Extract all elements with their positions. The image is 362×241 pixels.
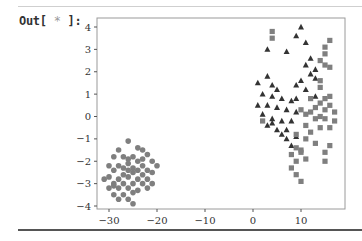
square-marker [318,125,323,130]
square-marker [332,109,337,114]
cell-bottom-divider [18,229,362,231]
y-tick-label: 0 [85,111,91,122]
square-marker [308,130,313,135]
circle-marker [121,172,127,178]
square-marker [322,159,327,164]
scatter-plot: 43210−1−2−3−4 −30−20−10010 [0,0,362,241]
square-marker [318,100,323,105]
y-tick-label: −1 [76,133,91,144]
square-marker [322,45,327,50]
circle-marker [125,196,131,202]
circle-marker [130,201,136,207]
square-marker [318,114,323,119]
circle-marker [130,190,136,196]
circle-marker [145,152,151,158]
square-marker [322,62,327,67]
circle-marker [145,185,151,191]
square-marker [308,109,313,114]
circle-marker [125,174,131,180]
square-marker [298,150,303,155]
circle-marker [111,192,117,198]
square-marker [327,103,332,108]
square-marker [327,143,332,148]
square-marker [303,136,308,141]
circle-marker [116,196,122,202]
square-marker [318,78,323,83]
square-marker [289,165,294,170]
square-marker [294,159,299,164]
y-tick-label: 4 [85,22,91,33]
x-tick-label: −10 [194,215,215,226]
square-marker [308,96,313,101]
square-marker [318,58,323,63]
circle-marker [135,176,141,182]
circle-marker [111,154,117,160]
circle-marker [135,158,141,164]
circle-marker [154,163,160,169]
x-tick-label: −30 [98,215,119,226]
square-marker [327,38,332,43]
square-marker [303,123,308,128]
square-marker [322,96,327,101]
square-marker [303,156,308,161]
square-marker [332,118,337,123]
circle-marker [140,163,146,169]
square-marker [322,150,327,155]
circle-marker [130,170,136,176]
circle-marker [130,181,136,187]
x-tick-label: 10 [295,215,308,226]
circle-marker [140,181,146,187]
circle-marker [145,176,151,182]
square-marker [260,118,265,123]
y-tick-label: 3 [85,44,91,55]
circle-marker [125,138,131,144]
circle-marker [116,176,122,182]
square-marker [327,94,332,99]
square-marker [298,107,303,112]
square-marker [322,51,327,56]
circle-marker [149,170,155,176]
square-marker [294,132,299,137]
circle-marker [145,167,151,173]
y-tick-label: 1 [85,89,91,100]
square-marker [294,145,299,150]
circle-marker [135,188,141,194]
y-tick-label: −2 [76,156,91,167]
circle-marker [116,147,122,153]
circle-marker [140,172,146,178]
circle-marker [125,185,131,191]
circle-marker [116,163,122,169]
circle-marker [116,185,122,191]
circle-marker [140,156,146,162]
y-tick-label: 2 [85,66,91,77]
x-axis: −30−20−10010 [98,209,307,226]
x-tick-label: 0 [250,215,256,226]
square-marker [270,36,275,41]
circle-marker [149,158,155,164]
square-marker [322,116,327,121]
circle-marker [121,165,127,171]
circle-marker [135,167,141,173]
circle-marker [121,181,127,187]
square-marker [313,116,318,121]
square-marker [318,85,323,90]
circle-marker [121,192,127,198]
square-marker [303,112,308,117]
x-tick-label: −20 [146,215,167,226]
circle-marker [125,161,131,167]
circle-marker [111,167,117,173]
circle-marker [101,176,107,182]
circle-marker [106,174,112,180]
square-marker [294,172,299,177]
circle-marker [106,185,112,191]
square-marker [270,29,275,34]
circle-marker [121,154,127,160]
square-marker [289,152,294,157]
square-marker [327,125,332,130]
circle-marker [140,147,146,153]
circle-marker [130,154,136,160]
square-marker [313,105,318,110]
circle-marker [149,181,155,187]
circle-marker [125,167,131,173]
circle-marker [111,183,117,189]
